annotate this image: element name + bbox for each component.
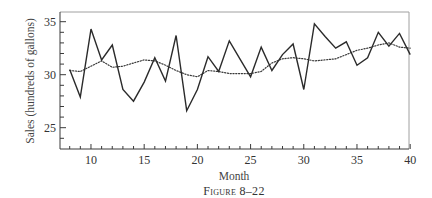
x-tick-label: 20 <box>191 153 203 167</box>
y-tick-label: 35 <box>44 15 56 29</box>
y-axis-title: Sales (hundreds of gallons) <box>24 18 37 144</box>
x-tick-label: 35 <box>351 153 363 167</box>
y-tick-label: 25 <box>44 121 56 135</box>
y-axis-tick-labels: 253035 <box>44 15 56 135</box>
x-tick-label: 25 <box>245 153 257 167</box>
x-axis-title: Month <box>219 170 250 182</box>
x-tick-label: 10 <box>85 153 97 167</box>
x-tick-label: 15 <box>138 153 150 167</box>
series-actual-solid-line <box>70 24 411 111</box>
x-axis-ticks <box>70 144 410 149</box>
figure-caption: Figure 8–22 <box>203 184 264 198</box>
y-axis-ticks <box>60 22 66 139</box>
x-tick-label: 40 <box>404 153 416 167</box>
y-tick-label: 30 <box>44 68 56 82</box>
x-axis-tick-labels: 10152025303540 <box>85 153 416 167</box>
line-chart: 10152025303540 253035 Sales (hundreds of… <box>0 0 432 198</box>
x-tick-label: 30 <box>298 153 310 167</box>
